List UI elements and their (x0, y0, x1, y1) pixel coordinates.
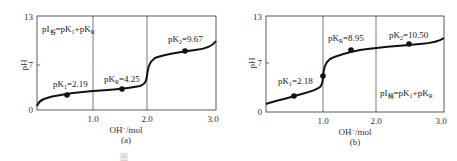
annotation-pk2-b: pK2=10.50 (389, 30, 429, 41)
x-tick-2-b: 2.0 (370, 116, 382, 126)
data-point-pk2-a (182, 48, 188, 54)
y-tick-13-a: 13 (24, 12, 34, 22)
x-tick-3-a: 3.0 (207, 114, 219, 124)
y-tick-7-a: 7 (29, 60, 34, 70)
figure: 13 7 0 pH 1.0 2.0 3.0 OH−/mol (a) pI谷=pK… (0, 0, 457, 161)
x-tick-2-a: 2.0 (141, 114, 153, 124)
y-tick-7-b: 7 (258, 58, 263, 68)
panel-tag-a: (a) (121, 135, 131, 145)
x-tick-1-b: 1.0 (317, 116, 329, 126)
annotation-pi-b: pI精=pK1+pKR (380, 88, 433, 100)
figure-caption: 图 (120, 151, 360, 161)
y-tick-13-b: 13 (253, 12, 263, 22)
x-tick-1-a: 1.0 (87, 114, 99, 124)
data-point-pk1-b (291, 93, 297, 99)
data-point-pk2-b (406, 41, 412, 47)
x-axis-label-a: OH−/mol (110, 125, 143, 135)
data-point-equivalence-b (320, 73, 326, 79)
panel-tag-b: (b) (350, 137, 361, 147)
annotation-pi-a: pI谷=pK1+pKR (42, 24, 95, 36)
chart-panel-a: 13 7 0 pH 1.0 2.0 3.0 OH−/mol (a) pI谷=pK… (19, 12, 219, 145)
y-tick-0-b: 0 (258, 107, 263, 117)
annotation-pk2-a: pK2=9.67 (168, 34, 203, 45)
annotation-pk1-b: pK1=2.18 (278, 76, 313, 87)
annotation-pkr-a: pKR=4.25 (104, 74, 140, 85)
x-axis-label-b: OH−/mol (339, 127, 372, 137)
chart-panel-b: 13 7 0 pH 1.0 2.0 3.0 OH−/mol (b) pK1=2.… (247, 12, 447, 147)
data-point-pkr-a (119, 86, 125, 92)
data-point-pk1-a (64, 92, 70, 98)
annotation-pkr-b: pKR=8.95 (328, 33, 364, 44)
y-axis-label-b: pH (247, 57, 257, 69)
data-point-pkr-b (348, 47, 354, 53)
y-axis-label-a: pH (19, 59, 29, 71)
y-tick-0-a: 0 (29, 105, 34, 115)
x-tick-3-b: 3.0 (435, 116, 447, 126)
annotation-pk1-a: pK1=2.19 (53, 79, 88, 90)
